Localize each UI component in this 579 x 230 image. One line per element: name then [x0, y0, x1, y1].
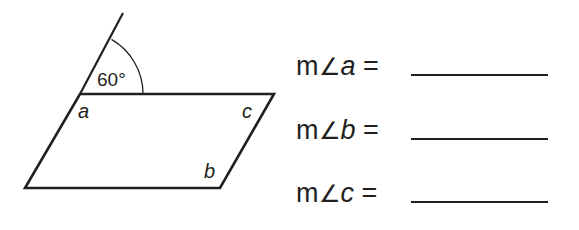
measure-prefix: m: [296, 51, 319, 81]
answer-blank-b[interactable]: [411, 138, 548, 140]
question-angle-c: m∠c =: [296, 177, 556, 207]
answer-blank-c[interactable]: [411, 201, 548, 203]
angle-variable: c: [341, 178, 355, 208]
vertex-label-a: a: [78, 100, 89, 122]
vertex-label-b: b: [204, 160, 215, 182]
parallelogram-shape: [25, 94, 274, 188]
angle-symbol: ∠: [319, 53, 341, 80]
equals-sign: =: [363, 51, 379, 81]
equation-label: m∠c =: [296, 180, 377, 207]
angle-measure-label: 60°: [97, 69, 126, 90]
vertex-label-c: c: [242, 100, 252, 122]
worksheet: 60° a c b m∠a = m∠b = m∠c =: [0, 0, 579, 230]
angle-symbol: ∠: [319, 180, 341, 207]
measure-prefix: m: [296, 178, 319, 208]
measure-prefix: m: [296, 115, 319, 145]
angle-variable: a: [341, 51, 356, 81]
equation-label: m∠a =: [296, 53, 379, 80]
question-angle-b: m∠b =: [296, 114, 556, 144]
equals-sign: =: [363, 115, 379, 145]
answer-blank-a[interactable]: [411, 74, 548, 76]
angle-variable: b: [341, 115, 356, 145]
equation-label: m∠b =: [296, 117, 379, 144]
angle-symbol: ∠: [319, 117, 341, 144]
question-angle-a: m∠a =: [296, 50, 556, 80]
equals-sign: =: [362, 178, 378, 208]
